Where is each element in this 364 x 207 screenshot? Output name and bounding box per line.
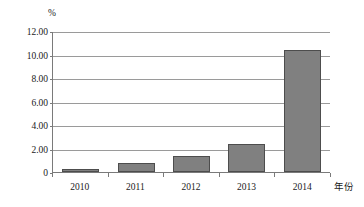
x-axis-tick-mark bbox=[108, 173, 109, 177]
y-axis-unit-label: % bbox=[22, 8, 56, 18]
bar-slot bbox=[108, 32, 163, 172]
x-axis-tick-label: 2014 bbox=[274, 180, 330, 196]
x-axis-tick-label: 2013 bbox=[219, 180, 275, 196]
y-axis-tick-label: 4.00 bbox=[4, 121, 48, 131]
x-axis-title: 年份 bbox=[334, 180, 354, 194]
y-axis-tick-label: 6.00 bbox=[4, 98, 48, 108]
y-axis-tick-label: 8.00 bbox=[4, 74, 48, 84]
y-axis-tick-label: 10.00 bbox=[4, 51, 48, 61]
x-axis-tick-labels: 20102011201220132014 bbox=[52, 180, 330, 196]
x-axis-tick-mark bbox=[219, 173, 220, 177]
x-axis-tick-mark bbox=[330, 173, 331, 177]
x-axis-tick-mark bbox=[274, 173, 275, 177]
x-axis-tick-mark bbox=[163, 173, 164, 177]
y-axis-tick-label: 2.00 bbox=[4, 145, 48, 155]
bar-chart: % 02.004.006.008.0010.0012.00 2010201120… bbox=[0, 0, 364, 207]
x-axis-tick-mark bbox=[52, 173, 53, 177]
bars-group bbox=[53, 32, 330, 172]
bar bbox=[62, 169, 99, 172]
x-axis-tick-label: 2010 bbox=[52, 180, 108, 196]
bar bbox=[173, 156, 210, 172]
y-axis-tick-label: 0 bbox=[4, 168, 48, 178]
bar-slot bbox=[53, 32, 108, 172]
bar bbox=[284, 50, 321, 172]
bar bbox=[228, 144, 265, 172]
x-axis-tick-label: 2012 bbox=[163, 180, 219, 196]
bar-slot bbox=[219, 32, 274, 172]
plot-area bbox=[52, 32, 330, 173]
bar-slot bbox=[164, 32, 219, 172]
bar bbox=[118, 163, 155, 172]
x-axis-tick-label: 2011 bbox=[108, 180, 164, 196]
bar-slot bbox=[275, 32, 330, 172]
y-axis-tick-label: 12.00 bbox=[4, 27, 48, 37]
x-axis-tick-marks bbox=[52, 173, 330, 178]
